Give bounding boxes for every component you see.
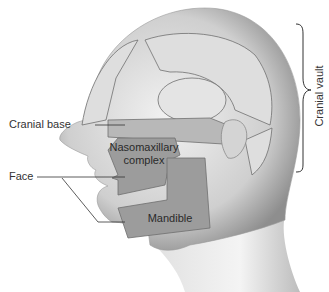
label-nasomaxillary-complex: Nasomaxillary complex xyxy=(104,141,184,167)
label-mandible: Mandible xyxy=(140,212,200,225)
label-nasomaxillary-line2: complex xyxy=(104,154,184,167)
vault-panel-oval xyxy=(158,78,226,122)
label-nasomaxillary-line1: Nasomaxillary xyxy=(104,141,184,154)
label-cranial-vault: Cranial vault xyxy=(313,61,325,131)
leader-face-lower xyxy=(62,178,98,222)
diagram-canvas: Cranial base Face Cranial vault Nasomaxi… xyxy=(0,0,329,292)
label-cranial-base: Cranial base xyxy=(9,118,71,130)
label-face: Face xyxy=(9,170,33,182)
